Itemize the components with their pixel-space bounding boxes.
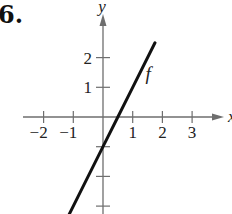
x-tick-label: −1 (59, 123, 77, 142)
x-tick-label: 1 (128, 123, 137, 142)
y-tick-label: 2 (84, 49, 93, 68)
x-axis-label: x (227, 107, 232, 126)
problem-number: 6. (0, 0, 23, 29)
graph-figure: 6. xy−2−112321f (0, 0, 232, 214)
x-tick-label: −2 (30, 123, 48, 142)
x-axis-arrow-icon (212, 114, 224, 121)
y-axis-label: y (96, 0, 106, 16)
curve-label-f: f (146, 63, 154, 84)
coordinate-plane: xy−2−112321f (0, 0, 232, 214)
x-tick-label: 2 (158, 123, 167, 142)
y-tick-label: 1 (84, 78, 93, 97)
line-f (67, 43, 155, 214)
x-tick-label: 3 (188, 123, 197, 142)
